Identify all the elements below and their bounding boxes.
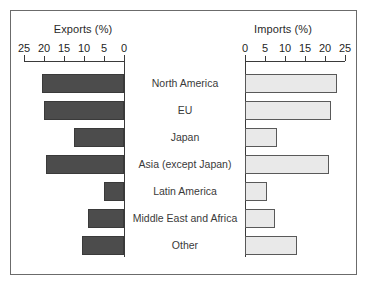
chart-figure: Exports (%) Imports (%) 2520151050 05101…	[10, 10, 357, 275]
export-bar	[46, 155, 124, 174]
export-bar	[88, 209, 124, 228]
import-bar	[245, 209, 275, 228]
category-label: Other	[129, 239, 241, 251]
import-bar	[245, 155, 329, 174]
import-bar	[245, 236, 297, 255]
imports-tick-mark	[325, 56, 326, 61]
imports-tick-label: 15	[294, 42, 316, 54]
imports-tick-mark	[305, 56, 306, 61]
imports-axis-line	[245, 61, 345, 62]
imports-tick-label: 20	[314, 42, 336, 54]
category-label: Japan	[129, 131, 241, 143]
imports-tick-mark	[345, 55, 346, 61]
exports-tick-label: 20	[33, 42, 55, 54]
export-bar	[82, 236, 124, 255]
import-bar	[245, 182, 267, 201]
import-bar	[245, 74, 337, 93]
imports-tick-label: 0	[234, 42, 256, 54]
imports-tick-mark	[265, 56, 266, 61]
export-bar	[44, 101, 124, 120]
category-label: Latin America	[129, 185, 241, 197]
exports-tick-label: 15	[53, 42, 75, 54]
category-label: EU	[129, 104, 241, 116]
imports-axis-title: Imports (%)	[223, 23, 343, 35]
category-label: Middle East and Africa	[129, 212, 241, 224]
exports-tick-mark	[24, 55, 25, 61]
imports-tick-label: 5	[254, 42, 276, 54]
exports-tick-mark	[104, 56, 105, 61]
import-bar	[245, 101, 331, 120]
exports-tick-label: 10	[73, 42, 95, 54]
import-bar	[245, 128, 277, 147]
export-bar	[74, 128, 124, 147]
imports-tick-label: 10	[274, 42, 296, 54]
exports-tick-label: 0	[113, 42, 135, 54]
exports-tick-label: 25	[13, 42, 35, 54]
exports-tick-mark	[64, 56, 65, 61]
imports-tick-label: 25	[334, 42, 356, 54]
category-label: Asia (except Japan)	[129, 158, 241, 170]
imports-tick-mark	[285, 56, 286, 61]
exports-tick-mark	[84, 56, 85, 61]
exports-tick-label: 5	[93, 42, 115, 54]
exports-tick-mark	[44, 56, 45, 61]
export-bar	[42, 74, 124, 93]
exports-baseline	[124, 61, 125, 257]
exports-axis-title: Exports (%)	[23, 23, 143, 35]
export-bar	[104, 182, 124, 201]
category-label: North America	[129, 77, 241, 89]
exports-axis-line	[24, 61, 124, 62]
